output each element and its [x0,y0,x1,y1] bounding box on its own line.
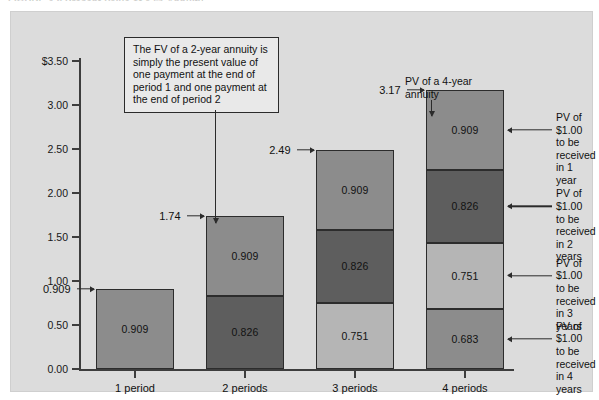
bar-total-label: 0.909 [43,283,71,295]
side-annotation-text: PV of $1.00 to be received in 4 years [556,320,596,396]
y-tick-mark [72,148,79,150]
y-tick-label: 0.50 [11,319,68,331]
bar-total-label: 2.49 [269,144,290,156]
bar-stack[interactable]: 0.9090.826 [206,216,284,369]
bar-segment[interactable]: 0.751 [426,243,504,309]
callout-note-box: The FV of a 2-year annuity is simply the… [124,37,279,113]
x-tick-label: 3 periods [332,382,377,394]
x-tick-mark [464,371,466,378]
bar-total-label: 3.17 [379,84,400,96]
figure-title: FIGURE 4-8 Present Value of a $1 Annuity [8,0,204,7]
side-annotation-arrow [508,338,552,339]
bar-segment[interactable]: 0.909 [206,216,284,296]
y-tick-label: 2.50 [11,143,68,155]
y-tick-mark [72,192,79,194]
bar-stack[interactable]: 0.909 [96,289,174,369]
x-axis-line [79,369,514,371]
y-tick-mark [72,324,79,326]
bar-segment[interactable]: 0.826 [316,230,394,303]
y-axis-line [79,58,81,371]
bar-segment[interactable]: 0.909 [316,150,394,230]
annuity-annotation-text: PV of a 4-year annuity [405,75,472,100]
y-tick-label: $3.50 [11,55,68,67]
bar-segment-label: 0.826 [232,326,259,338]
bar-segment-label: 0.909 [452,124,479,136]
side-annotation-arrow [508,275,552,276]
bar-segment[interactable]: 0.751 [316,303,394,369]
bar-total-label: 1.74 [159,210,180,222]
bar-segment-label: 0.751 [342,330,369,342]
y-tick-mark [72,236,79,238]
y-tick-mark [72,60,79,62]
y-tick-label: 0.00 [11,363,68,375]
bar-segment[interactable]: 0.909 [96,289,174,369]
x-tick-label: 2 periods [222,382,267,394]
x-tick-mark [244,371,246,378]
y-tick-mark [72,280,79,282]
y-tick-label: 2.00 [11,187,68,199]
bar-segment-label: 0.683 [452,333,479,345]
bar-total-arrow [297,149,314,150]
side-annotation-text: PV of $1.00 to be received in 2 years [556,187,596,263]
bar-stack[interactable]: 0.9090.8260.7510.683 [426,90,504,369]
bar-stack[interactable]: 0.9090.8260.751 [316,150,394,369]
y-tick-label: 1.50 [11,231,68,243]
y-tick-label: 3.00 [11,99,68,111]
y-tick-mark [72,104,79,106]
bar-segment[interactable]: 0.909 [426,90,504,170]
side-annotation-arrow [508,129,552,130]
y-tick-mark [72,368,79,370]
bar-segment-label: 0.826 [342,260,369,272]
bar-total-arrow [77,288,94,289]
x-tick-mark [354,371,356,378]
bar-total-arrow [187,215,204,216]
bar-segment-label: 0.909 [342,184,369,196]
bar-segment-label: 0.751 [452,270,479,282]
bar-segment-label: 0.826 [452,200,479,212]
callout-leader-arrow [215,110,216,223]
side-annotation-arrow [508,206,552,207]
x-tick-mark [134,371,136,378]
bar-segment[interactable]: 0.826 [206,296,284,369]
x-tick-label: 4 periods [442,382,487,394]
bar-segment-label: 0.909 [232,250,259,262]
annuity-leader-arrow [431,100,432,116]
chart-panel: 0.000.501.001.502.002.503.00$3.50 1 peri… [10,11,593,392]
callout-note-text: The FV of a 2-year annuity is simply the… [133,43,271,106]
bar-segment[interactable]: 0.683 [426,309,504,369]
bar-segment-label: 0.909 [122,323,149,335]
side-annotation-text: PV of $1.00 to be received in 1 year [556,111,596,187]
bar-segment[interactable]: 0.826 [426,170,504,243]
x-tick-label: 1 period [115,382,155,394]
